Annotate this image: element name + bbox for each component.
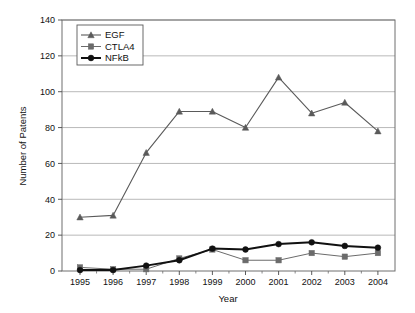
x-axis-title: Year (218, 293, 237, 304)
data-point-square (243, 258, 248, 263)
data-point-square (375, 250, 380, 255)
x-tick-label-1996: 1996 (103, 277, 123, 287)
x-tick-label-1995: 1995 (70, 277, 90, 287)
data-point-circle (110, 267, 116, 273)
x-tick-label-2000: 2000 (235, 277, 255, 287)
data-point-circle (77, 267, 83, 273)
data-point-square (309, 250, 314, 255)
x-tick-label-1999: 1999 (202, 277, 222, 287)
data-point-circle (176, 257, 182, 263)
data-point-square (276, 258, 281, 263)
y-tick-label-120: 120 (40, 51, 55, 61)
x-tick-label-1998: 1998 (169, 277, 189, 287)
x-tick-label-1997: 1997 (136, 277, 156, 287)
data-point-circle (210, 246, 216, 252)
y-tick-label-100: 100 (40, 87, 55, 97)
x-tick-label-2002: 2002 (302, 277, 322, 287)
x-tick-label-2004: 2004 (368, 277, 388, 287)
y-tick-label-40: 40 (45, 195, 55, 205)
y-tick-label-60: 60 (45, 159, 55, 169)
data-point-circle (243, 247, 249, 253)
legend-label-EGF: EGF (105, 29, 125, 40)
data-point-circle (88, 55, 94, 61)
y-axis-title: Number of Patents (17, 106, 28, 185)
data-point-circle (375, 245, 381, 251)
x-tick-label-2003: 2003 (335, 277, 355, 287)
legend-label-CTLA4: CTLA4 (105, 41, 135, 52)
legend-label-NFkB: NFkB (105, 52, 129, 63)
data-point-square (88, 44, 93, 49)
y-tick-label-0: 0 (50, 266, 55, 276)
x-tick-label-2001: 2001 (269, 277, 289, 287)
data-point-square (342, 254, 347, 259)
data-point-circle (342, 243, 348, 249)
y-tick-label-80: 80 (45, 123, 55, 133)
data-point-circle (309, 239, 315, 245)
data-point-circle (143, 263, 149, 269)
y-tick-label-20: 20 (45, 230, 55, 240)
chart-legend: EGFCTLA4NFkB (77, 25, 143, 65)
chart-container: 020406080100120140 199519961997199819992… (0, 0, 415, 313)
y-tick-label-140: 140 (40, 15, 55, 25)
data-point-circle (276, 241, 282, 247)
line-chart: 020406080100120140 199519961997199819992… (0, 0, 415, 313)
